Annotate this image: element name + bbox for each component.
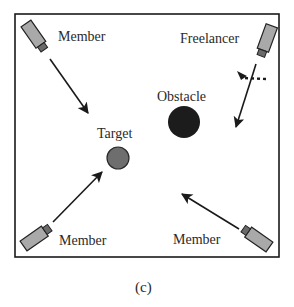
arrow-member-bottom-left	[53, 172, 102, 222]
robot-member-bottom-right	[240, 224, 273, 252]
robot-member-bottom-left	[20, 223, 53, 251]
target-circle	[107, 147, 129, 169]
figure-caption: (c)	[135, 279, 152, 296]
robot-member-top-left	[21, 20, 49, 53]
label-obstacle: Obstacle	[157, 89, 206, 104]
obstacle-circle	[168, 106, 200, 138]
label-member-bottom-right: Member	[173, 232, 221, 247]
arrow-member-top-left	[50, 59, 88, 113]
label-freelancer: Freelancer	[180, 31, 239, 46]
robot-freelancer	[255, 24, 277, 58]
robot-body	[257, 24, 277, 53]
diagram-canvas: Member Freelancer Obstacle Target Member…	[0, 0, 294, 307]
label-member-bottom-left: Member	[59, 233, 107, 248]
arrow-freelancer-deflection	[242, 78, 266, 79]
label-target: Target	[97, 126, 132, 141]
label-member-top-left: Member	[58, 29, 106, 44]
arrow-member-bottom-right	[182, 194, 239, 229]
